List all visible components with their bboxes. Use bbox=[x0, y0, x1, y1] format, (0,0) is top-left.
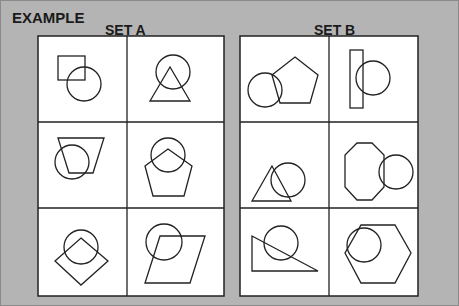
set-b-grid bbox=[240, 36, 418, 296]
shape-grids bbox=[0, 0, 459, 306]
set-a-grid bbox=[38, 36, 224, 296]
